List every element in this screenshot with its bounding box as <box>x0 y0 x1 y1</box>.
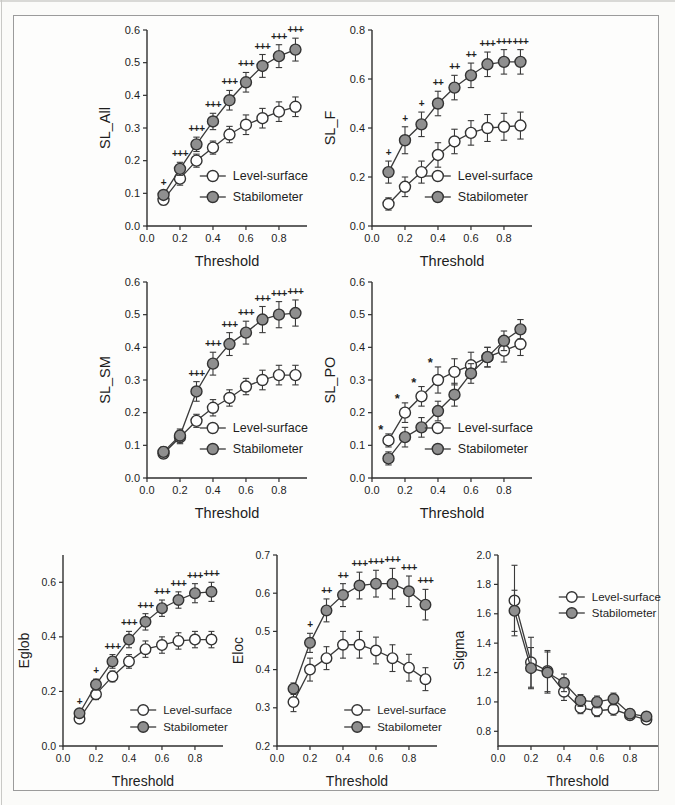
legend: Level-surfaceStabilometer <box>200 169 308 204</box>
data-point <box>240 327 251 338</box>
data-point <box>416 391 427 402</box>
y-tick-label: 0.1 <box>125 187 140 199</box>
data-point <box>191 155 202 166</box>
data-point <box>399 181 410 192</box>
data-point <box>399 432 410 443</box>
y-tick-label: 0.0 <box>350 220 365 232</box>
significance-label: +++ <box>512 36 529 47</box>
y-tick-label: 0.3 <box>350 374 365 386</box>
data-point <box>482 59 493 70</box>
data-point <box>383 167 394 178</box>
data-point <box>465 127 476 138</box>
legend-marker-stabilometer <box>207 444 218 455</box>
x-axis-label: Threshold <box>326 773 388 789</box>
y-tick-label: 0.2 <box>41 685 56 697</box>
x-tick-label: 0.4 <box>430 484 445 496</box>
significance-label: +++ <box>254 41 271 52</box>
y-tick-label: 1.6 <box>476 607 491 619</box>
x-tick-label: 0.4 <box>122 752 137 764</box>
scan-edge-artifact-left <box>1 0 2 805</box>
legend-marker-level-surface <box>432 423 443 434</box>
y-tick-label: 0.3 <box>255 701 270 713</box>
legend-item-stabilometer: Stabilometer <box>425 442 528 456</box>
chart-panel-eglob: +++++++++++++++++++++++0.00.20.40.60.00.… <box>13 539 235 805</box>
significance-label: +++ <box>479 38 496 49</box>
significance-label: ++ <box>466 49 477 60</box>
data-point <box>74 708 85 719</box>
data-point <box>498 121 509 132</box>
data-point <box>190 588 201 599</box>
y-tick-label: 0.0 <box>350 472 365 484</box>
data-point <box>290 370 301 381</box>
chart-canvas-eglob: +++++++++++++++++++++++0.00.20.40.60.00.… <box>13 539 235 805</box>
legend-label: Stabilometer <box>592 607 657 619</box>
data-point <box>305 638 316 649</box>
significance-label: ++ <box>449 61 460 72</box>
chart-canvas-sl-all: +++++++++++++++++++++++++0.00.10.20.30.4… <box>91 14 323 282</box>
y-tick-label: 0.2 <box>350 171 365 183</box>
y-tick-label: 0.2 <box>125 154 140 166</box>
x-tick-label: 0.0 <box>364 232 379 244</box>
legend-label: Level-surface <box>233 421 308 435</box>
chart-panel-sl-f: ++++++++++++++++++0.00.20.40.60.80.00.20… <box>316 14 548 282</box>
significance-label: +++ <box>203 568 220 579</box>
x-tick-label: 0.4 <box>205 232 220 244</box>
y-tick-label: 0.5 <box>350 308 365 320</box>
y-tick-label: 0.0 <box>41 740 56 752</box>
data-point <box>124 656 135 667</box>
chart-panel-sigma: 0.81.01.21.41.61.82.00.00.20.40.60.8Sigm… <box>448 539 670 805</box>
x-tick-label: 0.2 <box>172 232 187 244</box>
data-point <box>383 198 394 209</box>
legend: Level-surfaceStabilometer <box>425 169 533 204</box>
data-point <box>449 389 460 400</box>
legend-label: Stabilometer <box>458 442 528 456</box>
data-point <box>625 708 636 719</box>
data-point <box>290 308 301 319</box>
legend: Level-surfaceStabilometer <box>425 421 533 456</box>
data-point <box>224 129 235 140</box>
significance-label: +++ <box>368 556 385 567</box>
x-axis-label: Threshold <box>547 773 609 789</box>
y-tick-label: 0.2 <box>125 406 140 418</box>
x-tick-label: 0.8 <box>271 484 286 496</box>
tick-labels: 0.00.10.20.30.40.50.60.00.20.40.60.8 <box>350 276 512 497</box>
legend-label: Stabilometer <box>233 442 303 456</box>
data-point <box>191 139 202 150</box>
data-point <box>449 366 460 377</box>
data-point <box>290 101 301 112</box>
legend-item-level-surface: Level-surface <box>200 169 308 183</box>
y-tick-label: 0.3 <box>125 122 140 134</box>
legend-label: Level-surface <box>458 421 533 435</box>
legend: Level-surfaceStabilometer <box>200 421 308 456</box>
data-point <box>383 435 394 446</box>
data-point <box>641 711 652 722</box>
significance-label: +++ <box>351 558 368 569</box>
significance-label: +++ <box>205 338 222 349</box>
legend-label: Stabilometer <box>233 190 303 204</box>
y-tick-label: 0.4 <box>350 341 365 353</box>
y-tick-label: 0.5 <box>255 625 270 637</box>
x-tick-label: 0.0 <box>491 752 506 764</box>
significance-label: +++ <box>496 36 513 47</box>
legend-item-stabilometer: Stabilometer <box>559 607 657 619</box>
data-point <box>273 309 284 320</box>
legend-label: Level-surface <box>163 704 232 716</box>
significance-label: +++ <box>254 293 271 304</box>
data-point <box>107 671 118 682</box>
significance-label: + <box>307 619 313 630</box>
chart-canvas-sl-f: ++++++++++++++++++0.00.20.40.60.80.00.20… <box>316 14 548 282</box>
data-point <box>420 599 431 610</box>
y-tick-label: 0.5 <box>125 308 140 320</box>
x-tick-label: 0.8 <box>623 752 638 764</box>
data-point <box>207 402 218 413</box>
legend-marker-level-surface <box>138 705 149 716</box>
x-tick-label: 0.0 <box>139 484 154 496</box>
data-point <box>371 645 382 656</box>
x-tick-label: 0.4 <box>430 232 445 244</box>
significance-label: +++ <box>205 99 222 110</box>
data-point <box>449 82 460 93</box>
data-point <box>559 678 570 689</box>
significance-label: +++ <box>287 24 304 35</box>
data-point <box>257 113 268 124</box>
significance-label: ++ <box>433 77 444 88</box>
